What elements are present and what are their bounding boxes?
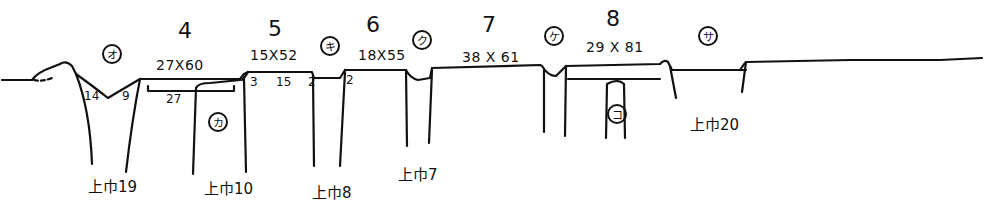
sub-label-2a: 2 [308, 76, 316, 88]
sub-label-2b: 2 [346, 74, 354, 86]
width-label-27: 27 [166, 93, 181, 105]
marker-o: オ [102, 44, 122, 64]
reference-r10: 上巾10 [204, 182, 253, 197]
section-4-dimensions: 27X60 [156, 58, 204, 72]
section-number-7: 7 [482, 14, 496, 36]
reference-r20: 上巾20 [690, 118, 739, 133]
marker-sa: サ [698, 26, 718, 46]
marker-ka: カ [208, 112, 228, 132]
section-number-5: 5 [268, 18, 282, 40]
marker-ku: ク [412, 30, 432, 50]
sub-label-15: 15 [276, 76, 291, 88]
reference-r19: 上巾19 [88, 180, 137, 195]
reference-r7: 上巾7 [398, 168, 438, 183]
marker-ke: ケ [544, 26, 564, 46]
marker-ko: コ [607, 104, 627, 124]
section-6-dimensions: 18X55 [358, 48, 406, 62]
section-7-dimensions: 38 X 61 [462, 50, 520, 64]
reference-r8: 上巾8 [312, 186, 352, 201]
section-8-dimensions: 29 X 81 [586, 40, 644, 54]
section-number-4: 4 [178, 20, 192, 42]
depth-label-9: 9 [122, 90, 130, 102]
sketch-canvas: 4 5 6 7 8 27X60 15X52 18X55 38 X 61 29 X… [0, 0, 986, 208]
section-5-dimensions: 15X52 [250, 48, 298, 62]
section-number-8: 8 [606, 8, 620, 30]
marker-ki: キ [320, 36, 340, 56]
depth-label-14: 14 [84, 90, 99, 102]
sub-label-3: 3 [250, 76, 258, 88]
section-number-6: 6 [366, 14, 380, 36]
